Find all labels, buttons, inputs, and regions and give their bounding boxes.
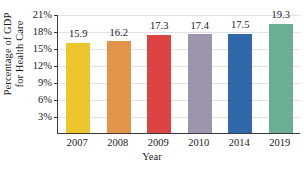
bar xyxy=(147,35,171,133)
bar xyxy=(269,24,293,133)
x-axis-tick-label: 2019 xyxy=(269,138,290,149)
bar-value-label: 17.4 xyxy=(191,21,209,32)
bar-group: 16.2 xyxy=(107,15,131,133)
bar-value-label: 19.3 xyxy=(272,10,290,21)
bar-value-label: 17.3 xyxy=(150,21,168,32)
bar-group: 17.3 xyxy=(147,15,171,133)
x-axis-tick-label: 2007 xyxy=(67,138,88,149)
x-axis-tick-label: 2009 xyxy=(148,138,169,149)
y-axis-tick-label: 3% xyxy=(38,112,52,123)
y-axis-tick-label: 12% xyxy=(33,61,52,72)
y-axis-tick-label: 6% xyxy=(38,95,52,106)
x-axis-title: Year xyxy=(0,152,304,163)
bar-chart-figure: Percentage of GDP for Health Care 3%6%9%… xyxy=(0,0,304,170)
bar-value-label: 16.2 xyxy=(110,28,128,39)
y-axis-tick-label: 21% xyxy=(33,10,52,21)
bar-group: 17.4 xyxy=(188,15,212,133)
y-axis-title: Percentage of GDP for Health Care xyxy=(0,0,29,114)
bar-group: 17.5 xyxy=(228,15,252,133)
bar-value-label: 15.9 xyxy=(69,29,87,40)
bar-value-label: 17.5 xyxy=(231,20,249,31)
y-axis-tick-label: 9% xyxy=(38,78,52,89)
x-axis-tick-label: 2008 xyxy=(107,138,128,149)
y-axis-title-line2: for Health Care xyxy=(14,21,26,88)
plot-area: 3%6%9%12%15%18%21% 15.916.217.317.417.51… xyxy=(57,15,300,134)
y-axis-title-line1: Percentage of GDP xyxy=(2,13,14,96)
x-axis-tick-label: 2014 xyxy=(229,138,250,149)
bar xyxy=(66,43,90,133)
y-axis-tick-label: 18% xyxy=(33,27,52,38)
bar-group: 15.9 xyxy=(66,15,90,133)
bar xyxy=(188,34,212,133)
bars-layer: 15.916.217.317.417.519.3 xyxy=(58,15,300,133)
bar-group: 19.3 xyxy=(269,15,293,133)
y-axis-tick-label: 15% xyxy=(33,44,52,55)
x-axis-tick-label: 2010 xyxy=(188,138,209,149)
bar xyxy=(228,34,252,133)
bar xyxy=(107,41,131,133)
